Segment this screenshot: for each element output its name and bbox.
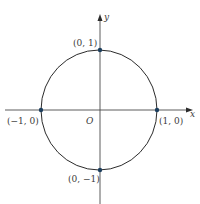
y-axis-arrow-icon [98, 14, 103, 21]
label-point-neg1-0: (−1, 0) [7, 116, 39, 126]
point-1-0 [155, 108, 159, 112]
point-neg1-0 [39, 108, 43, 112]
label-point-1-0: (1, 0) [159, 116, 183, 126]
origin-label: O [86, 116, 94, 126]
label-point-0-1: (0, 1) [73, 38, 97, 48]
y-axis-label: y [103, 12, 110, 22]
label-point-0-neg1: (0, −1) [68, 174, 100, 184]
x-axis-label: x [190, 109, 195, 119]
point-0-1 [98, 48, 102, 52]
point-0-neg1 [98, 168, 102, 172]
unit-circle-diagram: x y O (0, 1) (1, 0) (0, −1) (−1, 0) [0, 0, 200, 204]
